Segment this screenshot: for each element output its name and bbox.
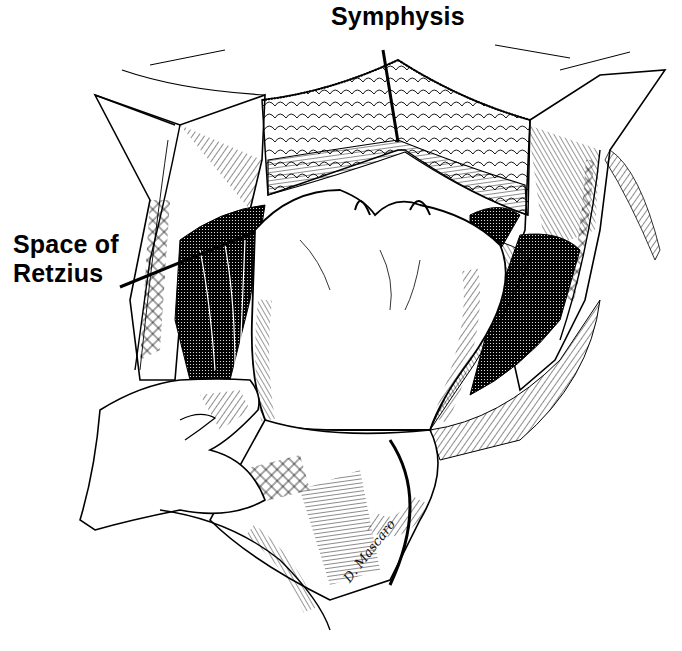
surgeon-wrist bbox=[210, 420, 438, 600]
retzius-label-line-1: Space of bbox=[13, 230, 119, 259]
space-of-retzius-label: Space of Retzius bbox=[13, 230, 119, 288]
symphysis-label: Symphysis bbox=[331, 2, 465, 31]
surgical-illustration bbox=[0, 0, 682, 651]
surgeon-hand bbox=[252, 190, 506, 430]
retzius-label-line-2: Retzius bbox=[13, 259, 119, 288]
illustration-canvas: Symphysis Space of Retzius D. Mascaro bbox=[0, 0, 682, 651]
